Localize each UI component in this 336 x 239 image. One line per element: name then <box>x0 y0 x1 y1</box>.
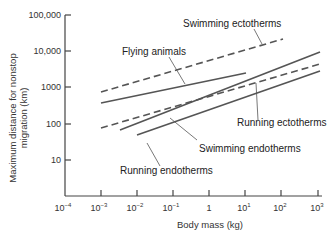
y-tick-10: 10 <box>51 155 61 165</box>
x-tick-1e-1: 10−1 <box>163 202 181 213</box>
x-tick-1e2: 102 <box>273 202 287 213</box>
x-tick-1e1: 101 <box>237 202 251 213</box>
y-tick-10000: 10,000 <box>33 46 61 56</box>
line-flying-animals <box>101 73 246 103</box>
label-swimming-endotherms: Swimming endotherms <box>199 143 301 154</box>
y-axis-title: Maximum distance for nonstop migration (… <box>7 53 29 182</box>
x-tick-labels: 10−4 10−3 10−2 10−1 1 101 102 103 <box>55 202 325 213</box>
x-axis-title: Body mass (kg) <box>177 219 243 230</box>
label-running-ectotherms: Running ectotherms <box>237 117 327 128</box>
x-tick-1e-3: 10−3 <box>91 202 109 213</box>
x-tick-1e3: 103 <box>310 202 324 213</box>
x-tick-1e-2: 10−2 <box>127 202 145 213</box>
svg-text:Maximum distance for nonstop: Maximum distance for nonstop <box>7 53 18 182</box>
x-tick-1: 1 <box>206 203 211 213</box>
y-tick-100000: 100,000 <box>28 10 61 20</box>
migration-distance-chart: 100,000 10,000 1000 100 10 10−4 10−3 10−… <box>0 0 336 239</box>
y-tick-100: 100 <box>46 119 61 129</box>
svg-text:migration (km): migration (km) <box>18 88 29 149</box>
label-running-endotherms: Running endotherms <box>120 165 213 176</box>
label-swimming-ectotherms: Swimming ectotherms <box>183 18 281 29</box>
label-flying-animals: Flying animals <box>122 46 186 57</box>
y-tick-1000: 1000 <box>41 82 61 92</box>
y-tick-labels: 100,000 10,000 1000 100 10 <box>28 10 61 165</box>
x-tick-1e-4: 10−4 <box>55 202 73 213</box>
